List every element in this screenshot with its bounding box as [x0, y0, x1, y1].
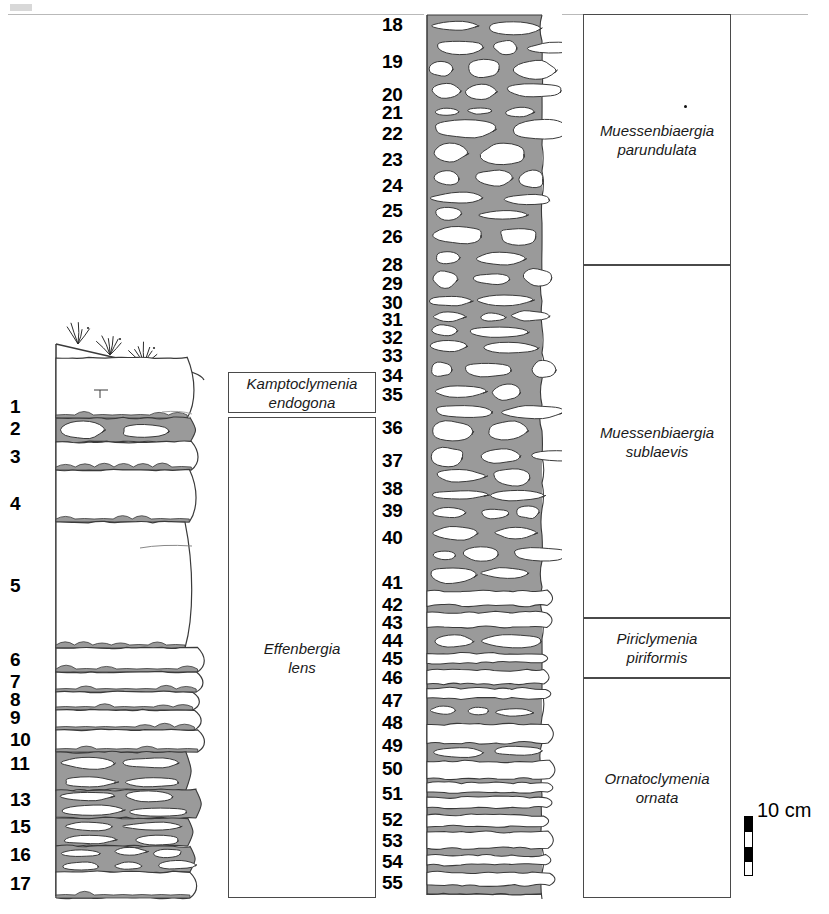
bed-number: 11	[10, 754, 30, 773]
bed-number: 9	[10, 708, 20, 727]
scale-bar: 10 cm	[744, 800, 824, 890]
bed-number: 41	[382, 573, 403, 592]
scale-bar-graphic	[744, 816, 753, 876]
bed-number: 4	[10, 494, 20, 513]
bed-number: 21	[382, 103, 403, 122]
bed-number: 28	[382, 255, 403, 274]
bed-number: 52	[382, 810, 403, 829]
bed-number: 25	[382, 201, 403, 220]
taxon-label: Muessenbiaergiaparundulata	[596, 121, 718, 159]
stratigraphic-figure: 123456789101113151617 181920212223242526…	[0, 0, 829, 914]
bed-number: 24	[382, 176, 403, 195]
bed-number: 49	[382, 736, 403, 755]
bed-number: 10	[10, 730, 31, 749]
taxon-genus: Ornatoclymenia	[604, 769, 709, 788]
taxon-label: Ornatoclymeniaornata	[600, 769, 713, 807]
scale-bar-segment	[745, 847, 752, 862]
bed-number: 17	[10, 874, 31, 893]
bed-number: 45	[382, 649, 403, 668]
taxon-species: lens	[264, 658, 341, 677]
taxon-range-box-kamptoclymenia-endogona: Kamptoclymeniaendogona	[228, 372, 376, 413]
left-lithology-drawing	[52, 322, 210, 900]
scale-bar-label: 10 cm	[757, 800, 811, 820]
taxon-genus: Muessenbiaergia	[600, 423, 714, 442]
scale-bar-segment	[745, 817, 752, 832]
bed-number: 22	[382, 124, 403, 143]
taxon-genus: Piriclymenia	[617, 629, 698, 648]
bed-number: 55	[382, 873, 403, 892]
page-corner-mark	[10, 4, 32, 11]
bed-number: 34	[382, 366, 403, 385]
taxon-label: Kamptoclymeniaendogona	[243, 374, 362, 412]
bed-number: 23	[382, 150, 403, 169]
scan-speck	[684, 105, 687, 108]
taxon-species: endogona	[247, 393, 358, 412]
bed-number: 51	[382, 784, 403, 803]
bed-number: 15	[10, 817, 31, 836]
bed-number: 19	[382, 52, 403, 71]
bed-number: 29	[382, 274, 403, 293]
right-lithology-drawing	[424, 13, 562, 899]
bed-number: 13	[10, 790, 31, 809]
taxon-range-box-muessenbiaergia-parundulata: Muessenbiaergiaparundulata	[583, 14, 731, 265]
bed-number: 38	[382, 479, 403, 498]
bed-number: 53	[382, 831, 403, 850]
taxon-genus: Kamptoclymenia	[247, 374, 358, 393]
taxon-label: Piriclymeniapiriformis	[613, 629, 702, 667]
taxon-species: piriformis	[617, 648, 698, 667]
taxon-species: ornata	[604, 788, 709, 807]
bed-number: 48	[382, 713, 403, 732]
bed-number: 3	[10, 447, 20, 466]
bed-number: 33	[382, 346, 403, 365]
bed-number: 46	[382, 668, 403, 687]
bed-number: 37	[382, 451, 403, 470]
bed-number: 50	[382, 759, 403, 778]
bed-number: 18	[382, 15, 403, 34]
bed-number: 26	[382, 227, 403, 246]
taxon-genus: Effenbergia	[264, 639, 341, 658]
bed-number: 35	[382, 385, 403, 404]
taxon-species: parundulata	[600, 140, 714, 159]
bed-number: 36	[382, 418, 403, 437]
bed-number: 47	[382, 691, 403, 710]
bed-number: 16	[10, 845, 31, 864]
taxon-species: sublaevis	[600, 442, 714, 461]
bed-number: 1	[10, 397, 20, 416]
bed-number: 54	[382, 852, 403, 871]
bed-number: 6	[10, 650, 20, 669]
bed-number: 39	[382, 501, 403, 520]
bed-number: 40	[382, 528, 403, 547]
taxon-range-box-effenbergia-lens: Effenbergialens	[228, 417, 376, 898]
taxon-range-box-ornatoclymenia-ornata: Ornatoclymeniaornata	[583, 678, 731, 898]
taxon-genus: Muessenbiaergia	[600, 121, 714, 140]
taxon-range-box-muessenbiaergia-sublaevis: Muessenbiaergiasublaevis	[583, 265, 731, 618]
taxon-label: Muessenbiaergiasublaevis	[596, 423, 718, 461]
left-lithology-column	[52, 322, 210, 900]
taxon-label: Effenbergialens	[260, 639, 345, 677]
bed-number: 2	[10, 419, 20, 438]
bed-number: 5	[10, 576, 20, 595]
taxon-range-box-piriclymenia-piriformis: Piriclymeniapiriformis	[583, 618, 731, 678]
right-lithology-column	[424, 13, 562, 899]
